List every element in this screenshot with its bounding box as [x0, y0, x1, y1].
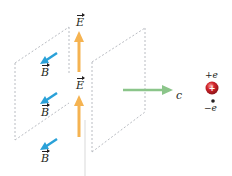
svg-text:+: + — [209, 84, 216, 93]
diagram-canvas: + — [0, 0, 232, 176]
wave-speed-label: c — [176, 90, 182, 101]
propagation-arrow — [123, 85, 173, 95]
b-field-label-mid: B — [41, 107, 49, 118]
left-plane — [15, 27, 69, 140]
b-field-label-bottom: B — [41, 153, 49, 164]
e-field-arrow-bottom — [74, 95, 84, 137]
e-field-label-mid: E — [76, 80, 84, 91]
e-field-arrow-top — [74, 31, 84, 72]
b-field-label-top: B — [41, 67, 49, 78]
negative-charge-label: −e — [204, 104, 217, 113]
e-field-label-top: E — [76, 17, 84, 28]
em-wave-diagram: + E E B B B c +e −e — [0, 0, 232, 176]
positive-charge: + — [206, 82, 219, 95]
positive-charge-label: +e — [205, 71, 218, 80]
